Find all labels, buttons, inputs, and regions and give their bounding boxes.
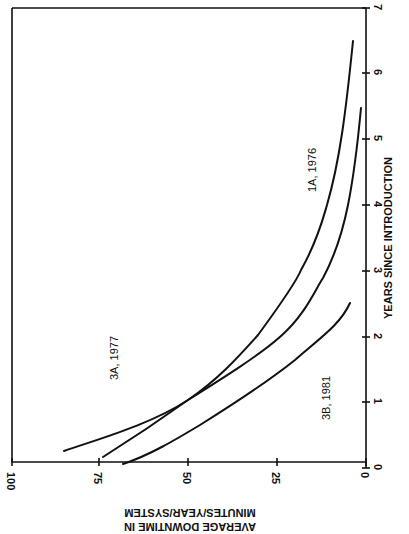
series-label-3a: 3A, 1977 [108,336,120,380]
value-tick-0: 0 [359,472,371,478]
value-axis-tick-labels: 100 75 50 25 0 [5,472,371,490]
year-tick-5: 5 [372,135,384,141]
value-tick-50: 50 [181,472,193,484]
series-label-3b: 3B, 1981 [320,376,332,420]
x-axis-title: YEARS SINCE INTRODUCTION [382,157,394,319]
value-tick-25: 25 [270,472,282,484]
y-axis-title-line2: MINUTES/YEAR/SYSTEM [124,507,255,519]
y-axis-title: MINUTES/YEAR/SYSTEM AVERAGE DOWNTIME IN [124,507,256,533]
series-1a-curve [103,41,353,457]
downtime-chart: 100 75 50 25 0 0 1 2 3 4 5 6 7 YEARS SIN… [0,0,409,534]
series-3b-curve [123,303,350,464]
year-tick-6: 6 [372,69,384,75]
value-tick-75: 75 [92,472,104,484]
year-tick-2: 2 [372,333,384,339]
y-axis-title-line1: AVERAGE DOWNTIME IN [124,521,256,533]
series-label-1a: 1A, 1976 [306,148,318,192]
value-tick-100: 100 [5,472,17,490]
year-tick-7: 7 [372,4,384,10]
year-tick-0: 0 [372,464,384,470]
year-tick-1: 1 [372,398,384,404]
